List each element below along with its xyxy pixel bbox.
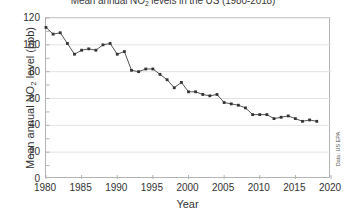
y-axis-title-suffix: level (ppb): [24, 26, 36, 80]
y-axis-title-prefix: Mean annual NO: [24, 85, 36, 168]
data-point-marker: [294, 117, 297, 120]
data-point-marker: [80, 49, 83, 52]
data-point-marker: [166, 78, 169, 81]
data-point-marker: [315, 120, 318, 123]
data-point-marker: [45, 26, 48, 29]
y-axis-title: Mean annual NO2 level (ppb): [24, 13, 36, 183]
source-note: Data: US EPA: [335, 119, 341, 179]
chart-title: Mean annual NO2 levels in the US (1980-2…: [0, 0, 346, 6]
data-point-marker: [223, 101, 226, 104]
data-point-marker: [208, 94, 211, 97]
source-note-container: Data: US EPA: [332, 120, 344, 180]
data-point-marker: [151, 68, 154, 71]
x-axis-tick-label: 2015: [276, 182, 312, 193]
data-point-marker: [59, 31, 62, 34]
data-point-marker: [194, 90, 197, 93]
x-axis-tick-label: 2005: [205, 182, 241, 193]
data-point-marker: [216, 93, 219, 96]
data-point-marker: [244, 106, 247, 109]
x-axis-tick-label: 2000: [170, 182, 206, 193]
chart-title-prefix: Mean annual NO: [71, 0, 145, 6]
data-point-marker: [87, 47, 90, 50]
data-point-marker: [94, 49, 97, 52]
data-point-marker: [52, 33, 55, 36]
data-point-marker: [187, 90, 190, 93]
series-line: [46, 27, 317, 121]
data-point-marker: [102, 43, 105, 46]
x-axis-tick-label: 2010: [241, 182, 277, 193]
x-axis-tick-label: 1985: [63, 182, 99, 193]
data-point-marker: [159, 73, 162, 76]
chart-title-suffix: levels in the US (1980-2018): [149, 0, 276, 6]
x-axis-title: Year: [45, 198, 330, 210]
data-point-marker: [73, 53, 76, 56]
data-point-marker: [258, 113, 261, 116]
data-point-marker: [144, 68, 147, 71]
data-point-marker: [251, 113, 254, 116]
data-point-marker: [109, 42, 112, 45]
data-point-marker: [287, 115, 290, 118]
plot-area: [45, 17, 330, 178]
data-point-marker: [137, 70, 140, 73]
data-point-marker: [123, 50, 126, 53]
x-axis-tick-label: 1980: [27, 182, 63, 193]
data-point-marker: [301, 120, 304, 123]
y-axis-title-subscript: 2: [29, 81, 38, 85]
data-point-marker: [308, 119, 311, 122]
x-axis-tick-label: 1990: [98, 182, 134, 193]
data-point-marker: [201, 93, 204, 96]
data-point-marker: [173, 86, 176, 89]
data-point-marker: [130, 69, 133, 72]
data-point-marker: [230, 102, 233, 105]
y-axis-title-container: Mean annual NO2 level (ppb): [2, 17, 16, 178]
data-point-marker: [237, 104, 240, 107]
chart-figure: Mean annual NO2 levels in the US (1980-2…: [0, 0, 346, 216]
x-axis-tick-label: 2020: [312, 182, 346, 193]
data-point-marker: [66, 42, 69, 45]
data-point-marker: [273, 117, 276, 120]
data-point-marker: [116, 53, 119, 56]
data-line-series: [46, 18, 331, 179]
data-point-marker: [180, 81, 183, 84]
data-point-marker: [280, 116, 283, 119]
x-axis-tick-label: 1995: [134, 182, 170, 193]
data-point-marker: [265, 113, 268, 116]
chart-title-subscript: 2: [145, 0, 149, 7]
